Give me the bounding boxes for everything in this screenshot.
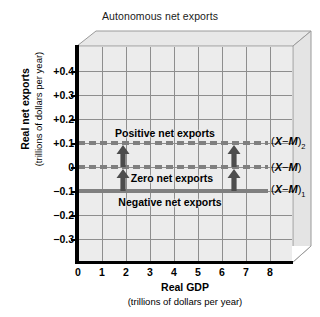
y-axis-line <box>75 45 79 264</box>
y-tick-label--0.3: −0.3 <box>32 233 74 245</box>
x-tick-label-2: 2 <box>116 266 136 278</box>
gridline-v-3 <box>150 47 151 262</box>
annotation-negative-net-exports: Negative net exports <box>118 196 221 208</box>
gridline-h-0.2 <box>78 119 292 120</box>
x-axis-line <box>75 261 293 265</box>
series-label-subscript: 2 <box>301 142 305 151</box>
x-tick-label-6: 6 <box>212 266 232 278</box>
arrow-up-left-upper <box>115 144 131 168</box>
x-tick-label-4: 4 <box>164 266 184 278</box>
gridline-h-0.3 <box>78 95 292 96</box>
gridline-v-7 <box>246 47 247 262</box>
arrow-up-right-lower <box>226 168 242 192</box>
annotation-zero-net-exports: Zero net exports <box>131 172 213 184</box>
y-axis-title-sub: (trillions of dollars per year) <box>33 52 44 167</box>
x-tick-label-7: 7 <box>236 266 256 278</box>
x-tick-label-8: 8 <box>260 266 280 278</box>
x-axis-title-main: Real GDP <box>161 281 209 293</box>
figure: Autonomous net exports Positive net expo… <box>0 0 320 317</box>
series-label-x-m: (X−M) <box>271 161 301 173</box>
gridline-v-1 <box>102 47 103 262</box>
y-axis-title-main: Real net exports <box>19 68 31 150</box>
y-tick-label--0.2: −0.2 <box>32 209 74 221</box>
annotation-positive-net-exports: Positive net exports <box>115 127 215 139</box>
x-tick-label-3: 3 <box>140 266 160 278</box>
x-axis-title-sub: (trillions of dollars per year) <box>78 295 292 308</box>
plot-area <box>78 47 292 262</box>
x-tick-label-5: 5 <box>188 266 208 278</box>
y-axis-title: Real net exports (trillions of dollars p… <box>19 29 45 189</box>
series-label-m-glyph: M <box>288 183 297 195</box>
series-label-x-m-1: (X−M)1 <box>271 183 305 198</box>
series-label-m-glyph: M <box>288 161 297 173</box>
gridline-h--0.2 <box>78 215 292 216</box>
gridline-v-4 <box>174 47 175 262</box>
series-label-x-glyph: X <box>275 135 282 147</box>
box-top-face <box>77 31 311 46</box>
arrow-up-left-lower <box>115 168 131 192</box>
series-label-x-m-2: (X−M)2 <box>271 135 305 150</box>
series-label-x-glyph: X <box>275 161 282 173</box>
series-label-subscript: 1 <box>301 190 305 199</box>
arrow-up-right-upper <box>226 144 242 168</box>
series-label-x-glyph: X <box>275 183 282 195</box>
gridline-h-0.4 <box>78 71 292 72</box>
x-tick-label-0: 0 <box>68 266 88 278</box>
series-label-m-glyph: M <box>288 135 297 147</box>
x-axis-title: Real GDP (trillions of dollars per year) <box>78 281 292 308</box>
gridline-h--0.3 <box>78 239 292 240</box>
gridline-v-8 <box>270 47 271 262</box>
gridline-v-6 <box>222 47 223 262</box>
gridline-v-5 <box>198 47 199 262</box>
x-tick-label-1: 1 <box>92 266 112 278</box>
